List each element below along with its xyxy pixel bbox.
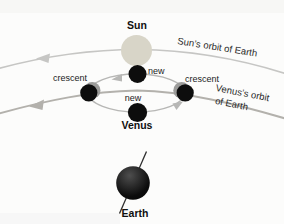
suns-orbit-label: Sun’s orbit of Earth: [177, 35, 258, 58]
scan-noise-top: [0, 0, 284, 13]
earth-label: Earth: [122, 207, 149, 219]
suns-orbit-arrowhead-icon: [36, 54, 50, 64]
diagram-canvas: Sun Sun’s orbit of Earth crescent new cr…: [0, 0, 284, 224]
venus-label: Venus: [122, 119, 153, 131]
new-top-label: new: [148, 66, 165, 76]
venus-crescent-right-circle: [177, 84, 194, 101]
venus-new-top-circle: [129, 65, 147, 83]
crescent-left-label: crescent: [53, 73, 88, 83]
new-bottom-label: new: [125, 93, 142, 103]
ptolemaic-venus-diagram: Sun Sun’s orbit of Earth crescent new cr…: [0, 0, 284, 224]
earth-circle: [116, 166, 150, 200]
scan-noise-bottom: [0, 213, 120, 224]
venus-crescent-left-circle: [80, 84, 97, 101]
sun-circle: [121, 35, 152, 66]
epicycle-arrowhead-right-icon: [173, 102, 184, 111]
sun-label: Sun: [127, 19, 147, 31]
crescent-right-label: crescent: [185, 74, 220, 84]
